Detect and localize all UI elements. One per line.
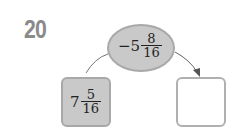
start-fraction: 5 16 xyxy=(81,88,102,115)
start-numerator: 5 xyxy=(85,88,97,101)
arrow-line xyxy=(175,52,197,72)
start-value-box: 7 5 16 xyxy=(61,77,111,127)
connector-line xyxy=(86,54,108,73)
operator-numerator: 8 xyxy=(145,32,157,45)
arrowhead-icon xyxy=(193,68,200,77)
operator-sign: − xyxy=(118,37,131,55)
operator-whole: 5 xyxy=(131,37,141,55)
operator-denominator: 16 xyxy=(141,45,162,59)
operator-ellipse: − 5 8 16 xyxy=(107,24,175,72)
operator-value: − 5 8 16 xyxy=(118,32,162,59)
start-denominator: 16 xyxy=(81,101,102,115)
operator-fraction: 8 16 xyxy=(141,32,162,59)
start-value: 7 5 16 xyxy=(70,88,101,115)
start-whole: 7 xyxy=(70,93,80,111)
answer-box[interactable] xyxy=(176,77,226,127)
